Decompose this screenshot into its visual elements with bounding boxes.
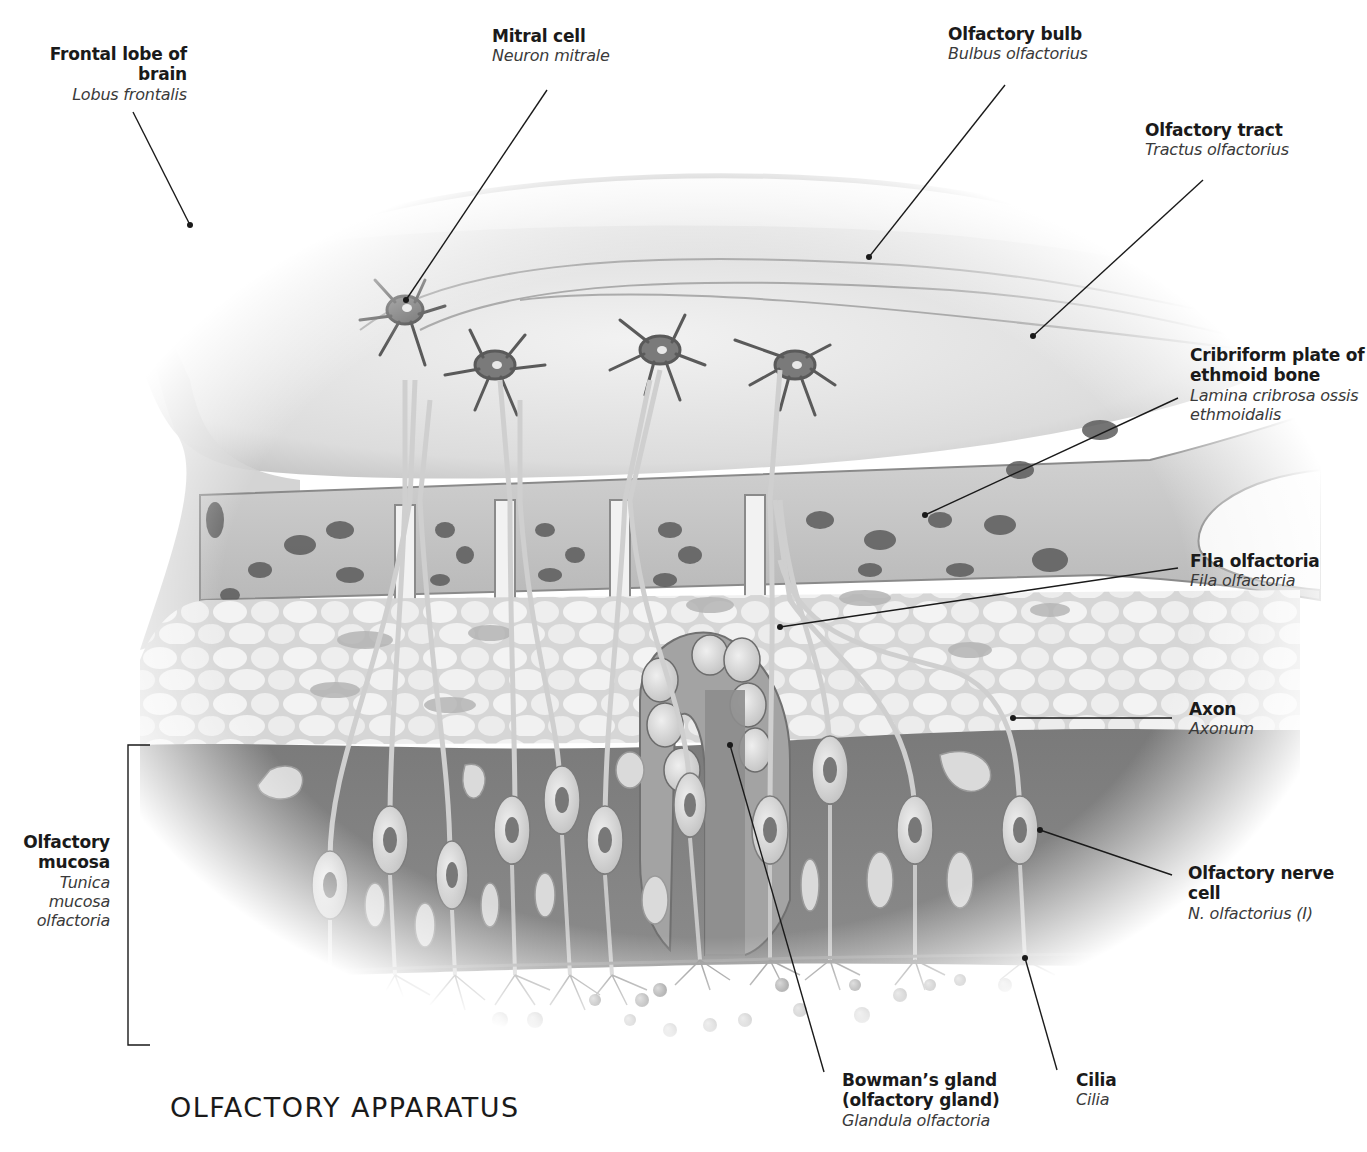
- label-fila-olfactoria: Fila olfactoria Fila olfactoria: [1190, 551, 1320, 591]
- label-latin-line2: ethmoidalis: [1190, 405, 1364, 424]
- olfactory-apparatus-illustration: [0, 0, 1367, 1152]
- label-term: Cilia: [1076, 1070, 1116, 1090]
- label-term-line1: Cribriform plate of: [1190, 345, 1364, 365]
- label-term: Olfactory tract: [1145, 120, 1289, 140]
- label-term: Olfactory nerve cell: [1188, 863, 1367, 904]
- label-latin: Cilia: [1076, 1090, 1116, 1109]
- label-latin: Axonum: [1189, 719, 1254, 738]
- label-cilia: Cilia Cilia: [1076, 1070, 1116, 1110]
- label-olfactory-bulb: Olfactory bulb Bulbus olfactorius: [948, 24, 1088, 64]
- label-latin: Fila olfactoria: [1190, 571, 1320, 590]
- label-olfactory-nerve-cell: Olfactory nerve cell N. olfactorius (I): [1188, 863, 1367, 923]
- label-mitral-cell: Mitral cell Neuron mitrale: [492, 26, 610, 66]
- label-latin: Bulbus olfactorius: [948, 44, 1088, 63]
- label-term: Olfactory bulb: [948, 24, 1088, 44]
- diagram-title: OLFACTORY APPARATUS: [170, 1092, 520, 1123]
- label-frontal-lobe: Frontal lobe of brain Lobus frontalis: [0, 44, 187, 104]
- label-latin-line1: Lamina cribrosa ossis: [1190, 386, 1364, 405]
- label-term: Frontal lobe of brain: [0, 44, 187, 85]
- label-term: Fila olfactoria: [1190, 551, 1320, 571]
- label-term: Axon: [1189, 699, 1254, 719]
- label-term-line2: mucosa: [0, 852, 110, 872]
- label-latin: Tractus olfactorius: [1145, 140, 1289, 159]
- label-latin: N. olfactorius (I): [1188, 904, 1367, 923]
- label-bowmans-gland: Bowman’s gland (olfactory gland) Glandul…: [842, 1070, 1000, 1130]
- label-term-line2: ethmoid bone: [1190, 365, 1364, 385]
- label-latin-line1: Tunica mucosa: [0, 873, 110, 911]
- label-latin: Neuron mitrale: [492, 46, 610, 65]
- label-term: Mitral cell: [492, 26, 610, 46]
- label-cribriform-plate: Cribriform plate of ethmoid bone Lamina …: [1190, 345, 1364, 424]
- label-latin: Glandula olfactoria: [842, 1111, 1000, 1130]
- label-term-line1: Bowman’s gland: [842, 1070, 1000, 1090]
- label-term-line2: (olfactory gland): [842, 1090, 1000, 1110]
- label-term-line1: Olfactory: [0, 832, 110, 852]
- label-latin-line2: olfactoria: [0, 911, 110, 930]
- label-olfactory-tract: Olfactory tract Tractus olfactorius: [1145, 120, 1289, 160]
- label-olfactory-mucosa: Olfactory mucosa Tunica mucosa olfactori…: [0, 832, 110, 930]
- label-axon: Axon Axonum: [1189, 699, 1254, 739]
- label-latin: Lobus frontalis: [0, 85, 187, 104]
